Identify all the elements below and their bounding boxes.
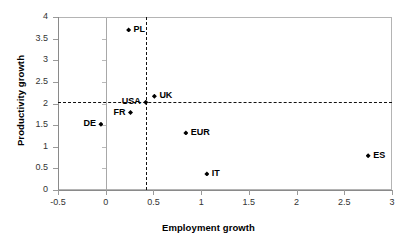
x-tick-label: 3 (377, 198, 407, 207)
x-tick-label: -0.5 (43, 198, 73, 207)
x-tick (392, 190, 393, 195)
data-point-label: USA (122, 97, 141, 106)
x-tick (106, 190, 107, 195)
x-tick (344, 190, 345, 195)
y-tick-label: 3.5 (22, 34, 48, 43)
x-tick-label: 0 (91, 198, 121, 207)
reference-line-vertical (106, 18, 107, 190)
x-tick (249, 190, 250, 195)
x-tick (153, 190, 154, 195)
x-tick (58, 190, 59, 195)
data-point-label: IT (212, 169, 220, 178)
data-point-label: EUR (191, 128, 210, 137)
y-tick (53, 104, 58, 105)
data-point-label: DE (83, 119, 96, 128)
scatter-chart: 00.511.522.533.54 -0.500.511.522.53 PLUS… (0, 0, 417, 246)
y-axis-line (58, 17, 59, 191)
y-tick-label: 1.5 (22, 120, 48, 129)
y-tick-label: 3 (22, 55, 48, 64)
y-tick (53, 147, 58, 148)
y-tick-label: 0 (22, 185, 48, 194)
x-tick (297, 190, 298, 195)
y-tick-label: 0.5 (22, 163, 48, 172)
y-tick-label: 2.5 (22, 77, 48, 86)
data-point-label: PL (134, 25, 146, 34)
y-tick (53, 125, 58, 126)
data-point-label: UK (159, 91, 172, 100)
y-tick-label: 2 (22, 99, 48, 108)
x-tick-label: 1.5 (234, 198, 264, 207)
y-tick-label: 4 (22, 12, 48, 21)
data-point-label: ES (373, 151, 385, 160)
x-tick (201, 190, 202, 195)
x-tick-label: 0.5 (138, 198, 168, 207)
y-tick (53, 82, 58, 83)
plot-area (58, 17, 392, 190)
x-axis-title: Employment growth (0, 222, 417, 233)
y-tick (53, 168, 58, 169)
y-tick (53, 17, 58, 18)
x-tick-label: 2 (282, 198, 312, 207)
y-tick (53, 60, 58, 61)
data-point-label: FR (114, 108, 126, 117)
x-tick-label: 2.5 (329, 198, 359, 207)
x-tick-label: 1 (186, 198, 216, 207)
y-axis-title: Productivity growth (15, 41, 26, 161)
y-tick-label: 1 (22, 142, 48, 151)
y-tick (53, 39, 58, 40)
x-axis-line (58, 190, 393, 191)
reference-line-horizontal (58, 102, 392, 103)
